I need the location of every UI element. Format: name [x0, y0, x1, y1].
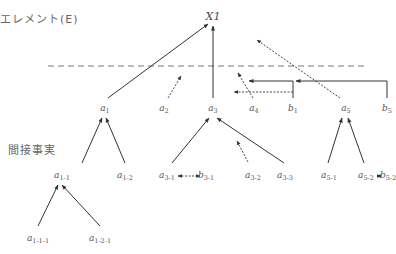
- node-a5: a5: [341, 104, 351, 115]
- element-heading: エレメント(E): [0, 14, 79, 25]
- node-a5-2: a5-2: [358, 171, 374, 182]
- edge-a3-2-to-above: [237, 141, 248, 162]
- node-b5: b5: [382, 104, 392, 115]
- node-a5-1: a5-1: [321, 171, 337, 182]
- node-subscript: 1-2-1: [94, 237, 111, 245]
- node-subscript: 5: [347, 107, 351, 115]
- edge-a1-1-to-a1: [82, 118, 102, 163]
- node-a2: a2: [159, 104, 169, 115]
- node-subscript: 5: [388, 107, 392, 115]
- node-b1: b1: [288, 104, 298, 115]
- node-b5-2: b5-2: [380, 171, 396, 182]
- node-b3-1: b3-1: [198, 171, 214, 182]
- diagram-edges: [0, 0, 396, 254]
- node-a1: a1: [100, 104, 110, 115]
- node-subscript: 3-1: [164, 174, 174, 182]
- node-subscript: 3-1: [204, 174, 214, 182]
- edge-a1-2-to-a1: [106, 118, 125, 163]
- node-subscript: 1-1-1: [32, 237, 49, 245]
- node-subscript: 1: [106, 107, 110, 115]
- edge-b5-to-b1: [296, 81, 387, 98]
- node-a4: a4: [249, 104, 259, 115]
- node-subscript: 3: [214, 107, 218, 115]
- edge-a1-2-1-to-a1-1: [62, 185, 100, 226]
- root-node-x1: X1: [206, 11, 221, 22]
- edge-a1-1-1-to-a1-1: [38, 185, 58, 226]
- evidence-structure-diagram: エレメント(E) 間接事実 X1 a1a2a3a4b1a5b5a1-1a1-2a…: [0, 0, 396, 254]
- edge-a1-to-X1: [108, 24, 208, 98]
- edge-a2-to-above-line: [168, 76, 181, 98]
- edge-a3-3-to-a3: [217, 118, 284, 163]
- node-a3-3: a3-3: [277, 171, 293, 182]
- node-subscript: 1-1: [59, 174, 69, 182]
- edge-a5-1-to-a5: [328, 118, 342, 163]
- node-subscript: 1: [294, 107, 298, 115]
- node-a1-1: a1-1: [54, 171, 70, 182]
- node-subscript: 2: [165, 107, 169, 115]
- node-a1-1-1: a1-1-1: [27, 234, 49, 245]
- edge-a3-1-to-a3: [172, 118, 209, 163]
- node-a3-2: a3-2: [245, 171, 261, 182]
- node-a1-2-1: a1-2-1: [89, 234, 111, 245]
- edge-group: [38, 24, 387, 226]
- edge-a4-to-above-line: [238, 73, 253, 98]
- node-a3-1: a3-1: [159, 171, 175, 182]
- node-a1-2: a1-2: [117, 171, 133, 182]
- node-a3: a3: [208, 104, 218, 115]
- node-subscript: 1-2: [122, 174, 132, 182]
- node-subscript: 3-3: [282, 174, 292, 182]
- edge-a5-to-above-line: [257, 40, 340, 98]
- node-subscript: 5-2: [363, 174, 373, 182]
- node-subscript: 5-2: [386, 174, 396, 182]
- node-subscript: 4: [255, 107, 259, 115]
- node-subscript: 3-2: [250, 174, 260, 182]
- node-subscript: 5-1: [326, 174, 336, 182]
- indirect-facts-heading: 間接事実: [8, 145, 56, 156]
- edge-a5-2-to-a5: [348, 118, 364, 163]
- edge-b1-to-a4: [249, 81, 293, 98]
